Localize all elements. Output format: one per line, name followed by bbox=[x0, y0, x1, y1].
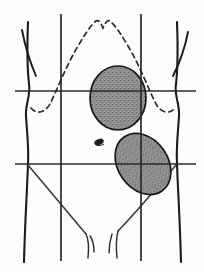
figure-background bbox=[0, 0, 204, 272]
abdomen-diagram bbox=[0, 0, 204, 272]
upper-mass bbox=[90, 66, 146, 130]
figure-canvas bbox=[0, 0, 204, 272]
